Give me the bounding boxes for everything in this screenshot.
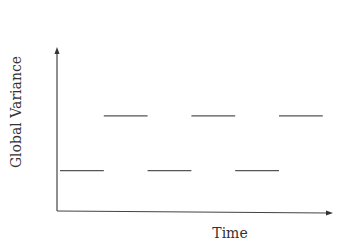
chart: Time Global Variance bbox=[0, 0, 346, 245]
segments-group bbox=[60, 116, 323, 171]
y-axis-arrow bbox=[55, 47, 60, 54]
x-axis-label: Time bbox=[212, 225, 247, 241]
y-axis-label: Global Variance bbox=[8, 56, 24, 168]
x-axis-arrow bbox=[326, 211, 333, 216]
x-axis bbox=[57, 211, 328, 213]
